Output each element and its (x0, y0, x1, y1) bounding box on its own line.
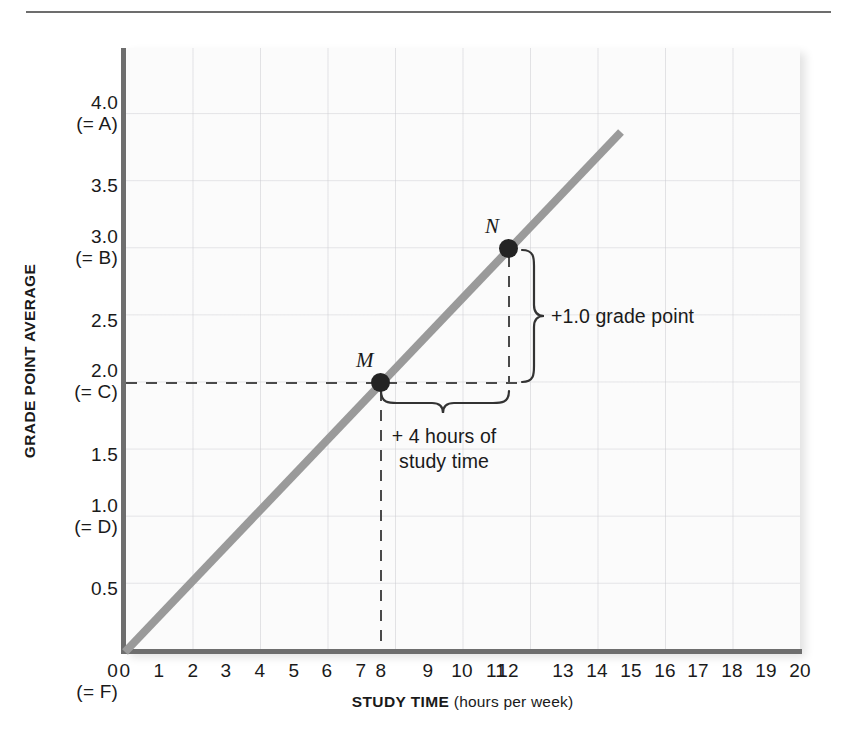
y-axis-title: GRADE POINT AVERAGE (21, 251, 39, 471)
y-tick-grade: (= D) (0, 516, 118, 537)
y-axis-line (121, 48, 126, 654)
y-tick-value: 3.0 (91, 226, 118, 247)
x-tick-value: 9 (423, 660, 434, 681)
y-tick-value: 2.0 (91, 360, 118, 381)
x-tick-value: 6 (322, 660, 333, 681)
y-tick-value: 1.0 (91, 495, 118, 516)
data-point-n-label: N (485, 214, 499, 239)
y-tick-3.0: 3.0 (= B) (0, 226, 118, 268)
y-tick-1.0: 1.0 (= D) (0, 495, 118, 537)
x-tick-value: 18 (721, 660, 743, 681)
y-tick-value: 0.5 (91, 578, 118, 599)
x-tick-value: 15 (620, 660, 642, 681)
y-tick-value: 4.0 (91, 92, 118, 113)
x-axis-title-unit: (hours per week) (449, 693, 573, 710)
x-tick-value: 19 (755, 660, 777, 681)
data-point-m-label: M (356, 348, 374, 373)
plot-area (125, 48, 800, 652)
x-tick-value: 3 (221, 660, 232, 681)
x-tick-value: 10 (451, 660, 473, 681)
data-point-n[interactable] (499, 239, 518, 258)
x-tick-value: 5 (289, 660, 300, 681)
x-tick-value: 13 (552, 660, 574, 681)
y-axis-tick-labels: 4.0 (= A) 3.5 3.0 (= B) 2.5 2.0 (= C) 1.… (0, 0, 118, 753)
y-tick-1.5: 1.5 (0, 444, 118, 465)
annotation-run-label: + 4 hours of study time (330, 424, 558, 474)
x-axis-title: STUDY TIME (hours per week) (125, 693, 800, 711)
x-tick-value: 0 (120, 660, 131, 681)
x-tick-value: 2 (188, 660, 199, 681)
y-tick-grade: (= B) (0, 247, 118, 268)
y-tick-grade: (= A) (0, 113, 118, 134)
x-tick-12: 12 (488, 660, 528, 682)
grid-lines (125, 48, 800, 652)
x-tick-value: 17 (687, 660, 709, 681)
y-tick-value: 3.5 (91, 175, 118, 196)
y-tick-2.0: 2.0 (= C) (0, 360, 118, 402)
x-axis-title-main: STUDY TIME (352, 693, 450, 710)
x-tick-value: 8 (376, 660, 387, 681)
x-tick-value: 1 (154, 660, 165, 681)
x-tick-value: 20 (789, 660, 811, 681)
annotation-run-line1: + 4 hours of (330, 424, 558, 449)
x-tick-value: 12 (497, 660, 519, 681)
x-tick-20: 20 (780, 660, 820, 682)
y-tick-grade: (= F) (0, 681, 118, 702)
y-tick-value: 1.5 (91, 444, 118, 465)
figure-container: 4.0 (= A) 3.5 3.0 (= B) 2.5 2.0 (= C) 1.… (0, 0, 853, 753)
x-axis-line (121, 649, 802, 654)
annotation-rise-label: +1.0 grade point (551, 304, 694, 329)
y-tick-0: 0 (= F) (0, 660, 118, 702)
data-point-m[interactable] (371, 373, 390, 392)
x-tick-value: 4 (255, 660, 266, 681)
top-divider-rule (26, 11, 831, 13)
x-tick-8: 8 (361, 660, 401, 682)
annotation-run-line2: study time (330, 449, 558, 474)
y-tick-grade: (= C) (0, 381, 118, 402)
y-tick-0.5: 0.5 (0, 578, 118, 599)
y-tick-2.5: 2.5 (0, 310, 118, 331)
y-tick-value: 2.5 (91, 310, 118, 331)
y-tick-3.5: 3.5 (0, 175, 118, 196)
x-tick-value: 16 (654, 660, 676, 681)
y-tick-4.0: 4.0 (= A) (0, 92, 118, 134)
x-tick-value: 14 (586, 660, 608, 681)
